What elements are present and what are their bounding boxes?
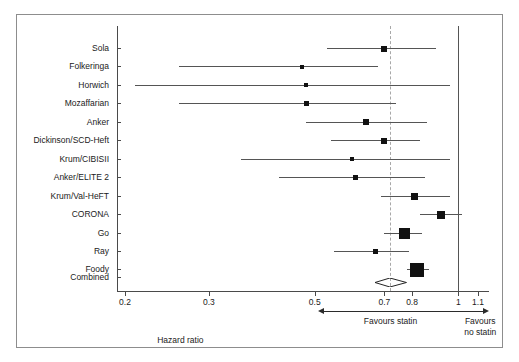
x-tick bbox=[458, 292, 459, 296]
study-axis-tick bbox=[117, 85, 121, 86]
x-axis-title: Hazard ratio bbox=[0, 335, 361, 345]
x-tick bbox=[478, 292, 479, 296]
favours-no-statin-label: Favoursno statin bbox=[456, 316, 504, 337]
study-label: Folkeringa bbox=[0, 61, 109, 71]
study-label: Mozaffarian bbox=[0, 98, 109, 108]
combined-diamond bbox=[375, 273, 406, 282]
study-marker bbox=[411, 193, 418, 200]
study-axis-tick bbox=[117, 48, 121, 49]
confidence-interval-line bbox=[135, 85, 450, 86]
reference-line-null bbox=[458, 26, 459, 291]
study-axis-tick bbox=[117, 177, 121, 178]
study-label: Dickinson/SCD-Heft bbox=[0, 135, 109, 145]
x-tick bbox=[412, 292, 413, 296]
confidence-interval-line bbox=[179, 66, 378, 67]
x-tick-label: 0.8 bbox=[394, 297, 430, 307]
study-marker bbox=[363, 119, 369, 125]
favours-no-statin-arrow-icon bbox=[483, 308, 489, 314]
study-marker bbox=[399, 228, 410, 239]
study-label: Anker/ELITE 2 bbox=[0, 172, 109, 182]
study-marker bbox=[373, 249, 378, 254]
favours-no-statin-line1: Favours bbox=[465, 316, 496, 326]
study-label: Krum/CIBISII bbox=[0, 154, 109, 164]
study-label: Horwich bbox=[0, 80, 109, 90]
study-label: Sola bbox=[0, 43, 109, 53]
study-axis-tick bbox=[117, 251, 121, 252]
x-tick bbox=[209, 292, 210, 296]
study-marker bbox=[437, 211, 445, 219]
study-axis-tick bbox=[117, 103, 121, 104]
study-marker bbox=[304, 101, 309, 106]
study-axis-tick bbox=[117, 66, 121, 67]
x-tick bbox=[384, 292, 385, 296]
study-label: Anker bbox=[0, 117, 109, 127]
study-axis-tick bbox=[117, 196, 121, 197]
combined-label: Combined bbox=[0, 272, 109, 282]
plot-area: 0.20.30.50.70.811.1SolaFolkeringaHorwich… bbox=[0, 0, 519, 362]
study-marker bbox=[381, 46, 387, 52]
forest-plot-figure: 0.20.30.50.70.811.1SolaFolkeringaHorwich… bbox=[0, 0, 519, 362]
favours-no-statin-line2: no statin bbox=[464, 327, 496, 337]
study-axis-tick bbox=[117, 214, 121, 215]
favours-statin-label: Favours statin bbox=[323, 316, 458, 327]
x-tick bbox=[315, 292, 316, 296]
confidence-interval-line bbox=[279, 177, 425, 178]
study-marker bbox=[300, 65, 304, 69]
study-marker bbox=[350, 157, 354, 161]
study-label: Krum/Val-HeFT bbox=[0, 191, 109, 201]
x-tick-label: 0.3 bbox=[191, 297, 227, 307]
study-axis-tick bbox=[117, 159, 121, 160]
x-tick-label: 1.1 bbox=[460, 297, 496, 307]
study-axis-tick bbox=[117, 140, 121, 141]
study-marker bbox=[304, 83, 308, 87]
x-tick-label: 0.5 bbox=[297, 297, 333, 307]
confidence-interval-line bbox=[331, 140, 420, 141]
study-marker bbox=[353, 175, 358, 180]
confidence-interval-line bbox=[241, 159, 450, 160]
study-axis-tick bbox=[117, 269, 121, 270]
study-marker bbox=[410, 263, 424, 277]
combined-axis-tick bbox=[117, 277, 121, 278]
confidence-interval-line bbox=[179, 103, 396, 104]
favours-no-statin-arrow-line bbox=[458, 311, 483, 312]
favours-statin-arrow-line bbox=[323, 311, 458, 312]
x-axis-line bbox=[117, 291, 489, 292]
x-tick-label: 0.2 bbox=[107, 297, 143, 307]
study-label: CORONA bbox=[0, 209, 109, 219]
study-axis-tick bbox=[117, 122, 121, 123]
study-axis-tick bbox=[117, 233, 121, 234]
study-label: Go bbox=[0, 228, 109, 238]
study-label: Ray bbox=[0, 246, 109, 256]
study-marker bbox=[381, 138, 387, 144]
x-tick bbox=[125, 292, 126, 296]
favours-statin-arrow-icon bbox=[318, 308, 324, 314]
